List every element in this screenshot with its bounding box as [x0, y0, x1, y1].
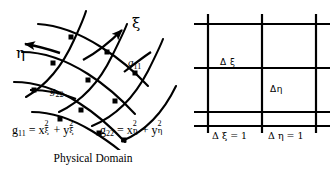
xi-curve-3 [92, 39, 163, 126]
g11-grid-label-sub: 11 [134, 62, 142, 71]
g22-formula-lhs-sub: 22 [106, 129, 114, 138]
figure-root: ξ η g11 g22 g11 = x2ξ + y2ξ g22 = x2η + … [0, 0, 336, 179]
g22-formula-equals: = [117, 123, 124, 137]
g11-formula-term1-indices: 2ξ [44, 122, 50, 134]
g11-formula: g11 = x2ξ + y2ξ [12, 122, 75, 138]
xi-direction-arrow [83, 30, 122, 60]
g11-formula-term2-indices: 2ξ [69, 122, 75, 134]
g22-formula-term2-sub: η [158, 126, 163, 135]
g22-formula-term2-indices: 2η [158, 122, 164, 134]
physical-domain-caption: Physical Domain [0, 152, 186, 164]
physical-domain-panel: ξ η g11 g22 g11 = x2ξ + y2ξ g22 = x2η + … [0, 0, 186, 179]
eta-curve-2 [22, 52, 135, 114]
g11-grid-label: g11 [128, 57, 141, 71]
g22-formula-plus: + [142, 123, 149, 137]
delta-xi-spacing-label: Δ ξ [220, 58, 236, 67]
g22-grid-label-sub: 22 [56, 90, 64, 99]
g11-formula-equals: = [29, 123, 36, 137]
delta-xi-equation-label: Δ ξ = 1 [212, 131, 247, 141]
eta-axis-label: η [16, 46, 25, 61]
g11-formula-lhs-sub: 11 [18, 129, 26, 138]
metric-formula-row: g11 = x2ξ + y2ξ g22 = x2η + y2η [0, 118, 186, 142]
g22-formula: g22 = x2η + y2η [100, 122, 164, 138]
g11-formula-term1-sub: ξ [44, 126, 48, 135]
delta-eta-spacing-label: Δη [270, 85, 283, 94]
g11-formula-plus: + [53, 123, 60, 137]
delta-eta-equation-label: Δ η = 1 [268, 131, 304, 141]
g22-formula-term1-indices: 2η [133, 122, 139, 134]
computational-space-panel: Δ ξ Δη Δ ξ = 1 Δ η = 1 Computational Spa… [186, 0, 336, 179]
g22-grid-label: g22 [50, 85, 64, 99]
computational-space-grid [186, 0, 336, 150]
g22-formula-term1-sub: η [133, 126, 138, 135]
g11-formula-term2-sub: ξ [69, 126, 73, 135]
xi-axis-label: ξ [132, 16, 140, 31]
